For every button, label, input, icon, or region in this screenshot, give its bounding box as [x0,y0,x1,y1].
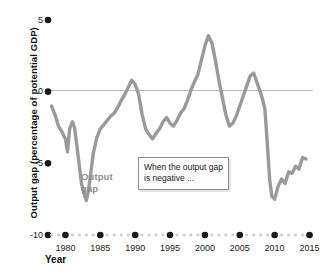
x-minor-tick-dot [210,234,213,237]
output-gap-chart-figure: 50-5-10 19801985199019952000200520102015… [0,0,320,278]
y-tick-label: -10 [14,231,43,240]
x-major-tick-dot [306,232,313,239]
x-major-tick-dot [167,232,174,239]
y-axis-tick-dots [45,17,52,239]
y-axis-title: Output gap (percentage of potential GDP) [28,29,39,219]
x-minor-tick-dot [141,234,144,237]
series-inline-label-line1: Output [81,171,113,183]
x-tick-label: 2005 [223,244,257,253]
x-tick-label: 2010 [258,244,292,253]
x-minor-tick-dot [162,234,165,237]
x-minor-tick-dot [245,234,248,237]
y-tick-dot [45,17,52,24]
x-minor-tick-dot [231,234,234,237]
series-inline-label-line2: gap [81,183,113,195]
x-major-tick-dot [236,232,243,239]
callout-annotation-box: When the output gap is negative ... [138,157,229,190]
x-minor-tick-dot [266,234,269,237]
x-tick-label: 2000 [188,244,222,253]
chart-plot-area [0,0,320,278]
x-major-tick-dot [62,232,69,239]
x-minor-tick-dot [196,234,199,237]
x-minor-tick-dot [182,234,185,237]
x-major-tick-dot [271,232,278,239]
x-tick-label: 1995 [153,244,187,253]
x-minor-tick-dot [224,234,227,237]
x-minor-tick-dot [287,234,290,237]
x-minor-tick-dot [92,234,95,237]
x-minor-tick-dot [78,234,81,237]
x-major-tick-dot [202,232,209,239]
x-axis-major-tick-dots [62,232,313,239]
x-minor-tick-dot [280,234,283,237]
y-tick-label: 5 [14,16,43,25]
series-inline-label: Output gap [81,171,113,195]
y-tick-dot [45,88,52,95]
x-minor-tick-dot [176,234,179,237]
x-minor-tick-dot [71,234,74,237]
x-major-tick-dot [132,232,139,239]
x-tick-label: 1980 [48,244,82,253]
x-minor-tick-dot [113,234,116,237]
x-major-tick-dot [97,232,104,239]
x-minor-tick-dot [148,234,151,237]
x-minor-tick-dot [301,234,304,237]
x-minor-tick-dot [259,234,262,237]
x-tick-label: 2015 [293,244,320,253]
x-tick-label: 1990 [118,244,152,253]
x-minor-tick-dot [294,234,297,237]
x-minor-tick-dot [106,234,109,237]
x-minor-tick-dot [155,234,158,237]
x-minor-tick-dot [217,234,220,237]
x-minor-tick-dot [120,234,123,237]
x-tick-label: 1985 [83,244,117,253]
x-minor-tick-dot [127,234,130,237]
x-axis-minor-tick-dots [50,234,304,237]
x-minor-tick-dot [50,234,53,237]
x-minor-tick-dot [189,234,192,237]
x-minor-tick-dot [57,234,60,237]
y-tick-dot [45,160,52,167]
x-minor-tick-dot [252,234,255,237]
x-axis-title: Year [45,254,66,265]
x-minor-tick-dot [85,234,88,237]
